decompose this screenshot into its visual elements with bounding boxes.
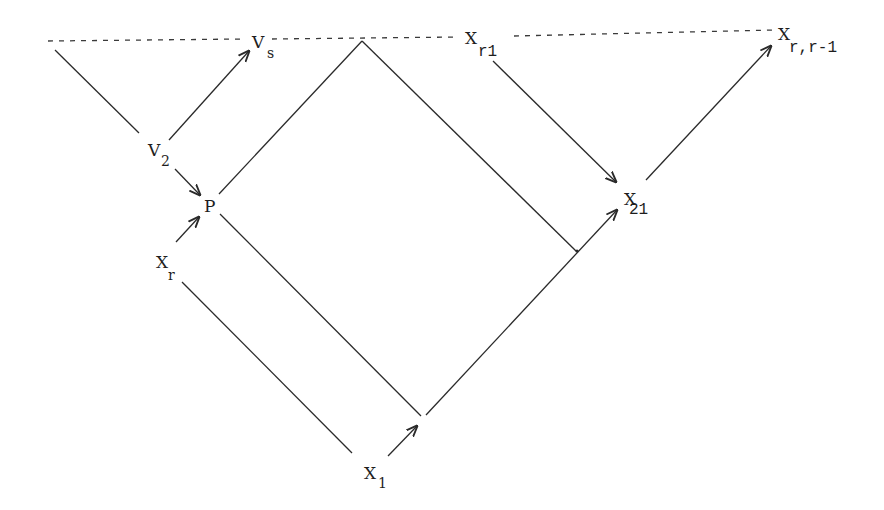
label-p: P [204,196,215,216]
svg-text:X: X [364,463,377,483]
svg-text:X: X [465,28,478,48]
svg-text:P: P [204,196,215,216]
label-xrr1: X r,r-1 [778,24,837,57]
label-xr1: X r1 [465,28,497,61]
svg-text:r,r-1: r,r-1 [789,39,837,57]
label-xr: X r [156,252,175,283]
svg-text:r: r [168,267,175,283]
line-p-to-apex [219,41,362,194]
dotted-top-line [48,39,244,41]
svg-text:21: 21 [629,201,648,219]
label-x21: X 21 [624,189,648,219]
left-edge-line [55,50,139,133]
arrow-diagram: V s V 2 P X r X 1 X r1 X 21 X r,r-1 [0,0,884,510]
svg-text:2: 2 [161,153,170,169]
arrow-x1-to-vertex [388,426,417,456]
svg-text:V: V [147,140,161,160]
dotted-top-line [514,30,774,36]
arrow-vertex-to-x21 [426,210,617,415]
label-x1: X 1 [364,463,387,491]
svg-text:r1: r1 [478,43,497,61]
arrow-v2-to-p [175,169,200,195]
label-vs: V s [251,32,274,61]
dotted-top-line [272,37,458,39]
svg-text:V: V [251,32,265,52]
line-xr-to-x1 [182,282,352,453]
junction-dot [575,249,578,252]
arrow-xr-to-p [176,217,199,242]
arrow-xr1-to-x21 [493,61,616,182]
arrow-x21-to-xrr1 [646,46,771,180]
svg-text:1: 1 [378,475,387,491]
line-p-to-lower-vertex [220,214,421,416]
line-apex-to-junction [362,41,576,251]
arrow-v2-to-vs [169,51,249,140]
svg-text:s: s [267,45,274,61]
label-v2: V 2 [147,140,170,169]
